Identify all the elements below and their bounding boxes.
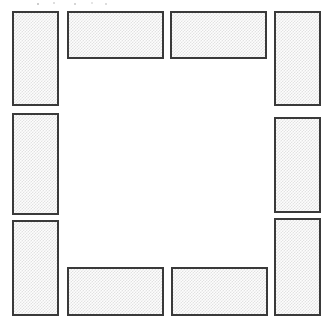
table-block-right-top[interactable]: Right Top Table	[274, 11, 321, 106]
table-block-right-bottom[interactable]: Right Bottom Table	[274, 218, 321, 316]
table-block-left-bottom[interactable]: Left Bottom Table	[12, 220, 59, 316]
hollow-square-layout-diagram: Left Top TableLeft Middle TableLeft Bott…	[0, 0, 333, 327]
table-block-bottom-left[interactable]: Bottom Left Table	[67, 267, 164, 316]
table-block-top-left[interactable]: Top Left Table	[67, 11, 164, 59]
table-block-right-middle[interactable]: Right Middle Table	[274, 117, 321, 213]
table-block-bottom-right[interactable]: Bottom Right Table	[171, 267, 268, 316]
scan-speckle-artifact	[34, 2, 112, 6]
table-block-left-top[interactable]: Left Top Table	[12, 11, 59, 106]
table-block-top-right[interactable]: Top Right Table	[170, 11, 267, 59]
table-block-left-middle[interactable]: Left Middle Table	[12, 113, 59, 215]
